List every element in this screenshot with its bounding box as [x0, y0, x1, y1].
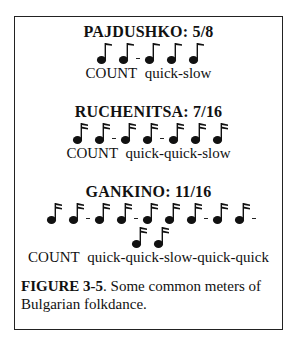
sixteenth-note-icon	[149, 225, 171, 249]
count-line: COUNT quick-slow	[15, 65, 282, 82]
count-label: COUNT	[66, 145, 118, 161]
sixteenth-note-icon	[68, 121, 90, 145]
sixteenth-note-icon	[138, 121, 160, 145]
sixteenth-note-icon	[208, 201, 230, 225]
figure-caption: FIGURE 3-5. Some common meters of Bulgar…	[21, 277, 276, 313]
sixteenth-note-icon	[186, 121, 208, 145]
sixteenth-note-icon	[90, 121, 112, 145]
count-line: COUNT quick-quick-slow	[15, 145, 282, 162]
sixteenth-note-icon	[112, 201, 134, 225]
meter-title: PAJDUSHKO: 5/8	[15, 23, 282, 41]
sixteenth-note-icon	[208, 121, 230, 145]
meter-gankino: GANKINO: 11/16 COUNT quick-quick-slow-qu…	[15, 183, 282, 266]
eighth-note-icon	[184, 41, 206, 65]
figure-frame: PAJDUSHKO: 5/8 COUNT quick-slow RUCHENIT…	[14, 16, 283, 330]
note-row	[15, 41, 282, 65]
count-pattern: quick-slow	[145, 65, 212, 81]
sixteenth-note-icon	[90, 201, 112, 225]
sixteenth-note-icon	[138, 201, 160, 225]
meter-title: GANKINO: 11/16	[15, 183, 282, 201]
caption-label: FIGURE 3-5	[21, 278, 103, 294]
count-pattern: quick-quick-slow-quick-quick	[87, 249, 269, 265]
eighth-note-icon	[162, 41, 184, 65]
sixteenth-note-icon	[160, 201, 182, 225]
meter-pajdushko: PAJDUSHKO: 5/8 COUNT quick-slow	[15, 23, 282, 82]
note-row	[15, 121, 282, 145]
sixteenth-note-icon	[42, 201, 64, 225]
meter-title: RUCHENITSA: 7/16	[15, 103, 282, 121]
sixteenth-note-icon	[127, 225, 149, 249]
sixteenth-note-icon	[116, 121, 138, 145]
note-row	[15, 201, 282, 225]
count-line: COUNT quick-quick-slow-quick-quick	[15, 249, 282, 266]
count-pattern: quick-quick-slow	[126, 145, 231, 161]
note-row-continued	[15, 225, 282, 249]
group-separator	[252, 201, 256, 225]
eighth-note-icon	[114, 41, 136, 65]
eighth-note-icon	[92, 41, 114, 65]
sixteenth-note-icon	[182, 201, 204, 225]
sixteenth-note-icon	[64, 201, 86, 225]
sixteenth-note-icon	[164, 121, 186, 145]
meter-ruchenitsa: RUCHENITSA: 7/16 COUNT quick-quick-slow	[15, 103, 282, 162]
sixteenth-note-icon	[230, 201, 252, 225]
count-label: COUNT	[28, 249, 80, 265]
count-label: COUNT	[86, 65, 138, 81]
eighth-note-icon	[140, 41, 162, 65]
